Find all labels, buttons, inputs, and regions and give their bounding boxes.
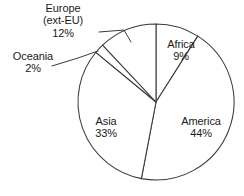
pie-slice-group [78, 24, 234, 180]
slice-label-america-name: America [173, 115, 229, 127]
slice-label-europe-name: Europe [26, 2, 100, 14]
slice-label-africa-name: Africa [158, 38, 204, 50]
slice-label-america: America 44% [173, 115, 229, 140]
slice-label-asia-percent: 33% [84, 127, 128, 139]
slice-label-asia-name: Asia [84, 115, 128, 127]
slice-label-europe: Europe (ext-EU) 12% [26, 2, 100, 39]
slice-label-oceania: Oceania 2% [2, 50, 64, 75]
slice-label-europe-name2: (ext-EU) [26, 14, 100, 26]
slice-label-oceania-name: Oceania [2, 50, 64, 62]
slice-label-europe-percent: 12% [26, 27, 100, 39]
slice-label-oceania-percent: 2% [2, 62, 64, 74]
slice-label-africa-percent: 9% [158, 50, 204, 62]
slice-label-asia: Asia 33% [84, 115, 128, 140]
slice-label-america-percent: 44% [173, 127, 229, 139]
slice-label-africa: Africa 9% [158, 38, 204, 63]
pie-chart: Europe (ext-EU) 12% Oceania 2% Africa 9%… [0, 0, 244, 196]
